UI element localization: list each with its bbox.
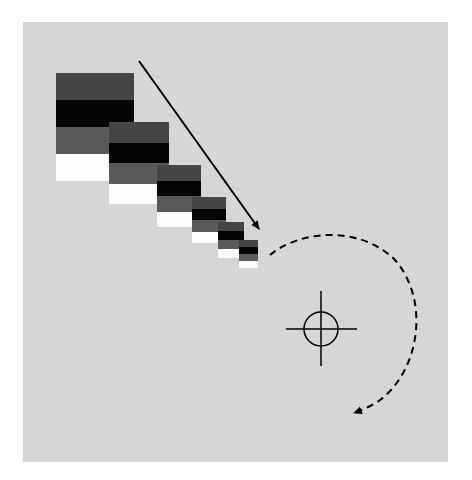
crosshair-icon (286, 291, 357, 366)
curved-dashed-arrow-icon (270, 235, 416, 413)
diagram-canvas (0, 0, 472, 480)
annotation-overlay (0, 0, 472, 480)
diagonal-arrow-icon (139, 61, 259, 229)
